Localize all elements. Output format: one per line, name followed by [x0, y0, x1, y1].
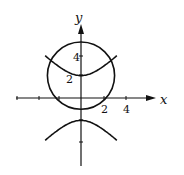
x-axis-label: x — [160, 92, 168, 107]
y-axis-arrow-icon — [78, 24, 84, 34]
figure: x y 2 4 2 4 — [0, 0, 184, 175]
ticks — [17, 56, 126, 142]
y-tick-label-4: 4 — [73, 51, 80, 64]
y-axis-label: y — [74, 10, 83, 25]
x-tick-label-2: 2 — [101, 103, 108, 116]
x-tick-label-4: 4 — [123, 103, 130, 116]
plot-area: x y 2 4 2 4 — [0, 0, 184, 175]
x-axis-arrow-icon — [146, 95, 156, 101]
y-tick-label-2: 2 — [66, 73, 73, 86]
